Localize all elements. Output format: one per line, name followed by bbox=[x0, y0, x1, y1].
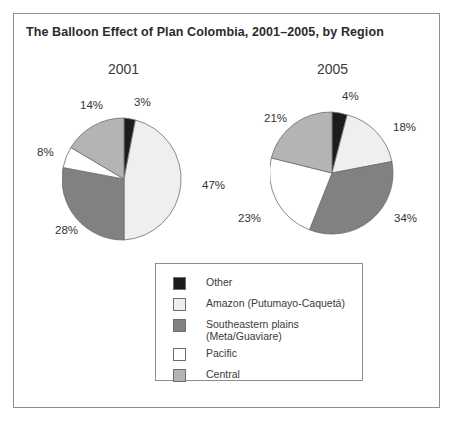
pie-value-label-2005-southeastern-plains: 34% bbox=[394, 212, 417, 224]
legend-label-other: Other bbox=[206, 276, 232, 288]
legend-item-central: Central bbox=[173, 368, 240, 382]
pie-chart-2005 bbox=[270, 111, 394, 235]
pie-value-label-2005-pacific: 23% bbox=[238, 212, 261, 224]
pie-value-label-2001-amazon: 47% bbox=[202, 179, 225, 191]
pie-value-label-2001-pacific: 8% bbox=[37, 146, 54, 158]
pie-value-label-2005-other: 4% bbox=[342, 90, 359, 102]
legend-label-amazon: Amazon (Putumayo-Caquetá) bbox=[206, 297, 345, 309]
legend-item-other: Other bbox=[173, 276, 232, 290]
pie-value-label-2005-amazon: 18% bbox=[393, 121, 416, 133]
pie-slice-amazon-2001 bbox=[124, 120, 181, 240]
pie-svg-2001 bbox=[62, 117, 186, 241]
legend-item-amazon: Amazon (Putumayo-Caquetá) bbox=[173, 297, 345, 311]
pie-value-label-2001-other: 3% bbox=[134, 96, 151, 108]
pie-chart-2001 bbox=[62, 117, 186, 241]
legend: Other Amazon (Putumayo-Caquetá) Southeas… bbox=[155, 263, 363, 381]
legend-swatch-pacific-icon bbox=[173, 348, 186, 361]
pie-year-label-2001: 2001 bbox=[108, 61, 139, 77]
legend-swatch-other-icon bbox=[173, 277, 186, 290]
figure-container: The Balloon Effect of Plan Colombia, 200… bbox=[0, 0, 455, 424]
legend-item-southeastern-plains: Southeastern plains (Meta/Guaviare) bbox=[173, 318, 299, 342]
pie-svg-2005 bbox=[270, 111, 394, 235]
legend-label-pacific: Pacific bbox=[206, 347, 237, 359]
legend-item-pacific: Pacific bbox=[173, 347, 237, 361]
legend-swatch-southeastern-plains-icon bbox=[173, 319, 186, 332]
legend-label-southeastern-plains: Southeastern plains (Meta/Guaviare) bbox=[206, 318, 299, 342]
legend-label-central: Central bbox=[206, 368, 240, 380]
pie-value-label-2001-southeastern-plains: 28% bbox=[55, 224, 78, 236]
page-title: The Balloon Effect of Plan Colombia, 200… bbox=[26, 25, 384, 39]
pie-value-label-2001-central: 14% bbox=[80, 99, 103, 111]
legend-swatch-central-icon bbox=[173, 369, 186, 382]
pie-value-label-2005-central: 21% bbox=[264, 112, 287, 124]
legend-swatch-amazon-icon bbox=[173, 298, 186, 311]
pie-year-label-2005: 2005 bbox=[317, 61, 348, 77]
